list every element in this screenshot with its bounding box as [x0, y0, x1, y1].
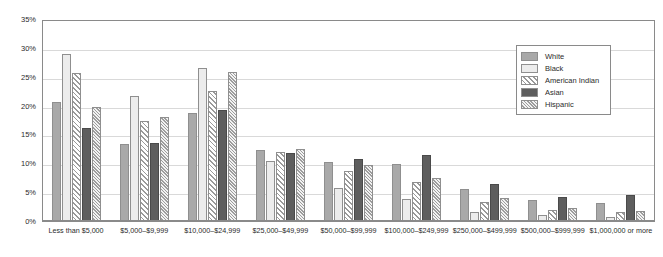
bar[interactable]	[228, 72, 237, 221]
y-axis-tick-label: 0%	[25, 218, 36, 226]
bar[interactable]	[528, 200, 537, 221]
x-axis-tick-label: $500,000–$999,999	[519, 226, 587, 246]
bar[interactable]	[412, 182, 421, 221]
legend-label: Hispanic	[545, 100, 574, 109]
bar[interactable]	[120, 144, 129, 221]
bar[interactable]	[266, 161, 275, 221]
bar[interactable]	[364, 165, 373, 221]
legend-item[interactable]: Black	[521, 62, 605, 74]
bar[interactable]	[558, 197, 567, 221]
legend-item[interactable]: Asian	[521, 86, 605, 98]
bar-group	[179, 21, 247, 221]
x-axis-tick-label: $5,000–$9,999	[110, 226, 178, 246]
x-axis-tick-label: $100,000–$249,999	[383, 226, 451, 246]
chart-legend: WhiteBlackAmerican IndianAsianHispanic	[516, 45, 611, 115]
bar[interactable]	[568, 208, 577, 221]
bar-group	[111, 21, 179, 221]
x-axis-tick-label: $1,000,000 or more	[587, 226, 655, 246]
bar-group	[315, 21, 383, 221]
legend-item[interactable]: American Indian	[521, 74, 605, 86]
bar[interactable]	[480, 202, 489, 221]
bar[interactable]	[296, 149, 305, 221]
bar[interactable]	[72, 73, 81, 221]
bar-group	[382, 21, 450, 221]
y-axis-tick-label: 10%	[21, 160, 36, 168]
y-axis-tick-label: 15%	[21, 131, 36, 139]
bar[interactable]	[160, 117, 169, 221]
bar[interactable]	[324, 162, 333, 221]
bar[interactable]	[82, 128, 91, 221]
legend-item[interactable]: White	[521, 50, 605, 62]
bar[interactable]	[62, 54, 71, 221]
legend-label: Black	[545, 64, 563, 73]
bar[interactable]	[626, 195, 635, 221]
grouped-bar-chart: 0%5%10%15%20%25%30%35% Less than $5,000$…	[0, 0, 663, 257]
legend-label: American Indian	[545, 76, 599, 85]
y-axis-tick-label: 20%	[21, 103, 36, 111]
bar[interactable]	[392, 164, 401, 221]
bar-group	[450, 21, 518, 221]
bar[interactable]	[422, 155, 431, 221]
bar[interactable]	[150, 143, 159, 221]
bar[interactable]	[344, 171, 353, 221]
bar[interactable]	[334, 188, 343, 221]
bar[interactable]	[490, 184, 499, 222]
bar[interactable]	[52, 102, 61, 221]
bar[interactable]	[354, 159, 363, 221]
x-axis-tick-label: $10,000–$24,999	[178, 226, 246, 246]
bar-group	[43, 21, 111, 221]
legend-label: Asian	[545, 88, 564, 97]
legend-swatch-icon	[521, 76, 538, 85]
bar[interactable]	[92, 107, 101, 221]
bar[interactable]	[218, 110, 227, 221]
bar[interactable]	[198, 68, 207, 221]
bar[interactable]	[432, 178, 441, 221]
bar[interactable]	[256, 150, 265, 221]
bar[interactable]	[208, 91, 217, 221]
bar[interactable]	[130, 96, 139, 221]
x-axis-tick-label: $25,000–$49,999	[246, 226, 314, 246]
legend-label: White	[545, 52, 564, 61]
y-axis-tick-label: 25%	[21, 74, 36, 82]
bar[interactable]	[500, 198, 509, 221]
x-axis-tick-label: Less than $5,000	[42, 226, 110, 246]
y-axis: 0%5%10%15%20%25%30%35%	[0, 0, 40, 257]
bar[interactable]	[140, 121, 149, 221]
legend-swatch-icon	[521, 100, 538, 109]
legend-swatch-icon	[521, 52, 538, 61]
y-axis-tick-label: 5%	[25, 189, 36, 197]
y-axis-tick-label: 35%	[21, 16, 36, 24]
y-axis-tick-label: 30%	[21, 45, 36, 53]
bar[interactable]	[188, 113, 197, 221]
x-axis-tick-label: $250,000–$499,999	[451, 226, 519, 246]
legend-swatch-icon	[521, 88, 538, 97]
x-axis-tick-label: $50,000–$99,999	[314, 226, 382, 246]
legend-swatch-icon	[521, 64, 538, 73]
bar[interactable]	[286, 153, 295, 221]
bar[interactable]	[596, 203, 605, 221]
bar[interactable]	[460, 189, 469, 221]
legend-item[interactable]: Hispanic	[521, 98, 605, 110]
x-axis-labels: Less than $5,000$5,000–$9,999$10,000–$24…	[42, 226, 655, 246]
bar[interactable]	[402, 199, 411, 222]
bar-group	[247, 21, 315, 221]
bar[interactable]	[276, 152, 285, 221]
x-axis-baseline	[43, 220, 654, 221]
